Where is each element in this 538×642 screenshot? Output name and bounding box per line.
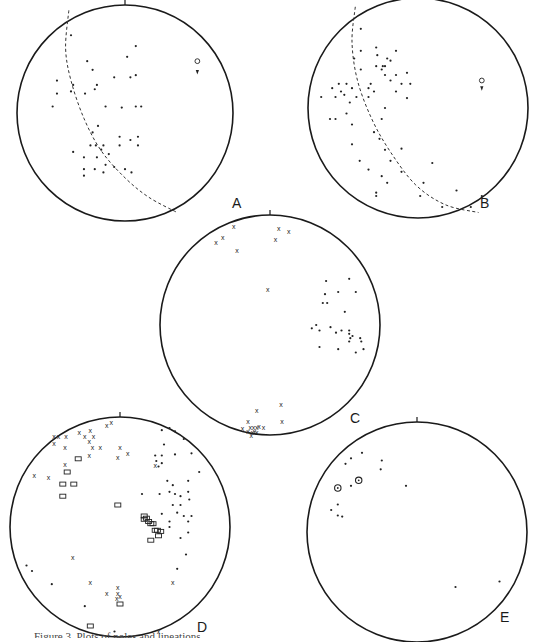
data-point-dot: [345, 83, 347, 85]
data-point-dot: [119, 144, 121, 146]
data-point-dot: [161, 429, 163, 431]
data-point-dot: [331, 87, 333, 89]
data-point-dot: [25, 564, 27, 566]
data-point-dot: [400, 83, 402, 85]
data-point-dot: [360, 68, 362, 70]
stereonet-panel-b: B: [308, 0, 528, 218]
data-point-open-circle: [195, 59, 200, 64]
data-point-dot: [386, 182, 388, 184]
data-point-dot: [361, 452, 363, 454]
data-point-dot: [384, 65, 386, 67]
data-point-dot: [159, 493, 161, 495]
panel-label: C: [350, 410, 360, 426]
data-point-dot: [318, 329, 320, 331]
data-point-dot: [355, 351, 357, 353]
data-point-x: x: [105, 422, 109, 429]
data-point-x: x: [83, 433, 87, 440]
data-point-dot: [375, 192, 377, 194]
data-point-arrow: [196, 70, 199, 75]
data-point-dot: [381, 118, 383, 120]
data-point-dot: [337, 348, 339, 350]
data-point-dot: [187, 491, 189, 493]
data-point-dot: [92, 131, 94, 133]
data-point-dot: [338, 83, 340, 85]
data-point-dot: [140, 105, 142, 107]
data-point-x: x: [78, 429, 82, 436]
data-point-x: x: [171, 579, 175, 586]
data-point-x: x: [274, 236, 278, 243]
data-point-dot: [350, 457, 352, 459]
data-point-dot: [351, 123, 353, 125]
data-point-dot: [454, 586, 456, 588]
data-point-dot: [311, 327, 313, 329]
data-point-dot: [353, 57, 355, 59]
data-point-dot: [172, 504, 174, 506]
data-point-dot: [334, 96, 336, 98]
data-point-x: x: [287, 228, 291, 235]
data-point-square: [71, 482, 77, 486]
data-point-dot: [126, 56, 128, 58]
data-point-dot: [104, 164, 106, 166]
data-point-dot: [190, 515, 192, 517]
data-point-dot: [470, 206, 472, 208]
data-point-square: [64, 470, 70, 474]
data-point-dot: [406, 97, 408, 99]
data-point-x: x: [277, 225, 281, 232]
data-point-dot: [94, 88, 96, 90]
data-point-dot: [389, 79, 391, 81]
data-point-x: x: [118, 444, 122, 451]
data-point-dot: [137, 144, 139, 146]
data-point-dot: [400, 171, 402, 173]
data-point-dot: [386, 57, 388, 59]
data-point-dot: [381, 459, 383, 461]
data-point-dot: [334, 118, 336, 120]
data-point-dot: [341, 516, 343, 518]
stereonet-panel-a: A: [17, 0, 242, 221]
data-point-dot: [375, 195, 377, 197]
data-point-dot: [322, 302, 324, 304]
data-point-dot: [188, 498, 190, 500]
data-point-x: x: [116, 454, 120, 461]
data-point-dot: [187, 520, 189, 522]
data-point-dot: [51, 583, 53, 585]
data-point-dot: [350, 485, 352, 487]
data-point-open-circle: [479, 78, 484, 83]
data-point-dot: [52, 105, 54, 107]
data-point-square: [60, 494, 66, 498]
data-point-x: x: [126, 450, 130, 457]
data-point-x: x: [214, 239, 218, 246]
data-point-dot: [183, 515, 185, 517]
data-point-dot: [330, 509, 332, 511]
data-point-dot: [367, 96, 369, 98]
data-point-dot: [318, 346, 320, 348]
data-point-dot: [320, 96, 322, 98]
primitive-circle: [307, 422, 527, 642]
data-point-dot: [349, 101, 351, 103]
data-point-dot: [161, 454, 163, 456]
data-point-dot: [163, 443, 165, 445]
data-point-dot: [185, 553, 187, 555]
data-point-dot: [102, 171, 104, 173]
data-point-dot: [135, 105, 137, 107]
data-point-square: [115, 503, 121, 507]
data-point-dot: [176, 568, 178, 570]
data-point-dot: [384, 149, 386, 151]
data-point-dot: [190, 452, 192, 454]
data-point-dot: [337, 503, 339, 505]
data-point-dot: [343, 94, 345, 96]
data-point-dot: [380, 468, 382, 470]
data-point-dot: [381, 175, 383, 177]
data-point-x: x: [98, 444, 102, 451]
data-point-x: x: [57, 433, 61, 440]
data-point-dot: [348, 340, 350, 342]
data-point-dot: [113, 76, 115, 78]
data-point-x: x: [232, 223, 236, 230]
data-point-dot: [154, 454, 156, 456]
data-point-dot: [83, 168, 85, 170]
data-point-dot: [108, 153, 110, 155]
data-point-x: x: [32, 472, 36, 479]
panel-label: E: [500, 609, 509, 625]
data-point-dot: [431, 162, 433, 164]
data-point-circled-dot: [337, 487, 339, 489]
data-point-x: x: [91, 444, 95, 451]
